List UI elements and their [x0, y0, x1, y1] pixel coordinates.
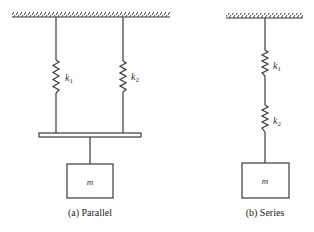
caption-series: (b) Series [246, 207, 285, 219]
label-k1: k1 [65, 72, 73, 85]
rigid-bar [39, 133, 141, 137]
label-k2: k2 [273, 115, 281, 128]
spring-k2 [120, 61, 126, 92]
parallel-system: k1 k2 m (a) Parallel [12, 12, 170, 219]
ceiling-hatch [226, 13, 303, 18]
label-k2: k2 [131, 71, 139, 84]
caption-parallel: (a) Parallel [68, 207, 112, 219]
spring-k2 [262, 105, 268, 132]
spring-diagram: k1 k2 m (a) Parallel k1 k2 m (b) Series [0, 0, 314, 232]
spring-k1 [53, 60, 59, 93]
label-k1: k1 [273, 60, 281, 73]
label-mass: m [87, 177, 94, 187]
ceiling-hatch [12, 12, 170, 17]
label-mass: m [262, 176, 269, 186]
series-system: k1 k2 m (b) Series [226, 13, 303, 219]
spring-k1 [262, 50, 268, 76]
